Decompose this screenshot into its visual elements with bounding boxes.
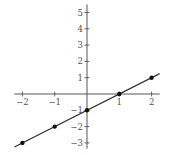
chart: −2−11254321−1−2−3 — [0, 0, 171, 155]
y-tick-label: 1 — [78, 73, 83, 83]
x-tick-label: −2 — [16, 97, 29, 107]
data-point — [85, 108, 89, 112]
data-point — [20, 141, 24, 145]
y-tick-label: −3 — [70, 138, 83, 148]
x-tick-label: 2 — [149, 97, 154, 107]
ticks: −2−11254321−1−2−3 — [16, 8, 154, 148]
y-tick-label: −2 — [70, 122, 83, 132]
y-tick-label: 2 — [78, 56, 83, 66]
y-tick-label: 4 — [78, 24, 83, 34]
x-tick-label: 1 — [117, 97, 122, 107]
y-tick-label: 5 — [78, 8, 83, 18]
data-point — [117, 92, 121, 96]
data-point — [53, 124, 57, 128]
data-point — [149, 76, 153, 80]
y-tick-label: 3 — [78, 40, 83, 50]
x-tick-label: −1 — [48, 97, 61, 107]
